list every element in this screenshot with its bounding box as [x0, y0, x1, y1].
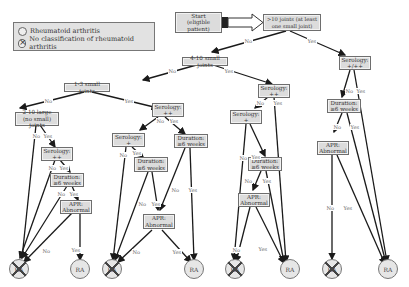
col4-duration-node: Duration: ≥6 weeks — [327, 99, 361, 113]
edge-label-no: No — [232, 247, 241, 253]
edge-label-yes: Yes — [251, 154, 261, 160]
edge-label-yes: Yes — [224, 68, 234, 74]
edge-label-no: No — [132, 249, 141, 255]
ra-classification-flowchart: Rheumatoid arthritis No classification o… — [0, 0, 409, 287]
edge-label-yes: Yes — [262, 178, 272, 184]
outcome-no-ra-2: RA — [102, 259, 122, 279]
outcome-no-ra-3: RA — [225, 259, 245, 279]
edge-label-yes: Yes — [258, 246, 268, 252]
crossed-circle-icon — [18, 39, 26, 48]
edge-label-no: No — [244, 38, 253, 44]
legend: Rheumatoid arthritis No classification o… — [13, 22, 155, 51]
col1-serology-node: Serology: ++ — [41, 147, 73, 161]
outcome-ra-3: RA — [280, 259, 300, 279]
col1-apr-node: APR: Abnormal — [60, 200, 92, 214]
edge-label-yes: Yes — [71, 247, 81, 253]
edge-label-yes: Yes — [307, 38, 317, 44]
outcome-ra-2: RA — [184, 259, 204, 279]
1-3-small-joints-node: 1-3 small joints — [64, 83, 110, 92]
edge-label-no: No — [44, 98, 53, 104]
col4-apr-node: APR: Abnormal — [317, 141, 349, 155]
edge-label-no: No — [119, 152, 128, 158]
edge-label-no: No — [256, 100, 265, 106]
edge-label-yes: Yes — [43, 133, 53, 139]
edge-label-no: No — [244, 178, 253, 184]
edge-label-yes: Yes — [59, 165, 69, 171]
edge-label-yes: Yes — [343, 205, 353, 211]
edge-label-no: No — [32, 133, 41, 139]
col2-apr-node: APR: Abnormal — [143, 214, 175, 229]
outcome-ra-4: RA — [378, 259, 398, 279]
edge-label-no: No — [48, 165, 57, 171]
edge-label-no: No — [239, 155, 248, 161]
col2-duration-a-node: Duration: ≥6 weeks — [134, 157, 168, 172]
legend-item-no-ra: No classification of rheumatoid arthriti… — [18, 37, 150, 49]
edge-label-no: No — [326, 205, 335, 211]
edge-label-yes: Yes — [350, 124, 360, 130]
edge-label-no: No — [345, 88, 354, 94]
edge-label-yes: Yes — [356, 88, 366, 94]
edge-label-yes: Yes — [124, 98, 134, 104]
col3-serology-pp-node: Serology: ++ — [258, 84, 290, 98]
col4-serology-node: Serology: +/++ — [339, 56, 371, 70]
edge-label-yes: Yes — [69, 191, 79, 197]
edge-label-no: No — [57, 191, 66, 197]
edge-label-no: No — [168, 68, 177, 74]
2-10-large-joints-node: 2-10 large (no small) joints — [15, 112, 59, 126]
edge-label-yes: Yes — [169, 118, 179, 124]
edge-label-yes: Yes — [172, 249, 182, 255]
outcome-no-ra-4: RA — [322, 259, 342, 279]
edge-label-no: No — [138, 201, 147, 207]
edge-label-no: No — [171, 187, 180, 193]
col1-duration-node: Duration: ≥6 weeks — [50, 173, 84, 187]
col3-serology-p-node: Serology: + — [230, 110, 262, 124]
start-node: Start (eligible patient) — [175, 12, 222, 33]
edge-label-yes: Yes — [273, 100, 283, 106]
col2-serology-pp-node: Serology: ++ — [152, 103, 184, 117]
4-10-small-joints-node: 4-10 small joints — [182, 57, 228, 66]
edge-label-no: No — [156, 118, 165, 124]
edge-label-yes: Yes — [188, 187, 198, 193]
start-arrow-icon — [222, 14, 263, 31]
edge-label-yes: Yes — [151, 201, 161, 207]
gt10-joints-node: >10 joints (at least one small joint) — [263, 14, 321, 31]
edge-label-no: No — [333, 124, 342, 130]
col2-serology-p-node: Serology: + — [112, 133, 145, 147]
col3-apr-node: APR: Abnormal — [238, 193, 270, 207]
col2-duration-b-node: Duration: ≥6 weeks — [174, 134, 208, 148]
edge-label-no: No — [42, 248, 51, 254]
outcome-no-ra-1: RA — [9, 259, 29, 279]
outcome-ra-1: RA — [70, 259, 90, 279]
circle-icon — [18, 27, 27, 36]
edge-label-yes: Yes — [132, 150, 142, 156]
